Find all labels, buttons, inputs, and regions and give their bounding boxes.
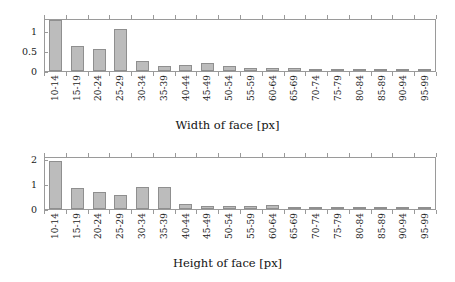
y-tick-mark [44, 52, 48, 53]
bar-slot [153, 20, 175, 71]
bar [179, 204, 192, 209]
bar [49, 161, 62, 209]
x-tick-label-slot: 10-14 [44, 213, 66, 253]
bar-slot [413, 20, 435, 71]
x-tick-mark [436, 72, 437, 76]
bar-slot [327, 158, 349, 209]
bar-slot [88, 20, 110, 71]
bar-slot [153, 158, 175, 209]
x-tick-label: 30-34 [138, 213, 147, 239]
x-tick-label-slot: 55-59 [240, 213, 262, 253]
bar-slot [67, 158, 89, 209]
x-tick-label: 85-89 [377, 213, 386, 239]
bar [158, 66, 171, 71]
bar-slot [45, 20, 67, 71]
x-tick-label-slot: 35-39 [153, 213, 175, 253]
x-tick-mark-top [218, 15, 219, 19]
x-tick-label-slot: 30-34 [131, 213, 153, 253]
x-tick-mark-top [153, 153, 154, 157]
bar-slot [392, 20, 414, 71]
x-tick-mark-top [371, 15, 372, 19]
x-tick-mark-top [392, 15, 393, 19]
x-tick-mark-top [349, 15, 350, 19]
x-tick-mark-top [240, 15, 241, 19]
x-tick-label-slot: 25-29 [109, 213, 131, 253]
x-tick-mark-top [218, 153, 219, 157]
bar [288, 207, 301, 209]
x-tick-label-slot: 75-79 [327, 213, 349, 253]
bar-slot [197, 20, 219, 71]
x-tick-mark-top [66, 15, 67, 19]
bar [114, 29, 127, 71]
bar-slot [67, 20, 89, 71]
x-tick-label: 60-64 [268, 213, 277, 239]
bar-slot [132, 158, 154, 209]
bar-slot [327, 20, 349, 71]
x-tick-label: 40-44 [181, 213, 190, 239]
bar-slot [305, 20, 327, 71]
x-tick-mark-top [109, 15, 110, 19]
x-tick-label-slot: 85-89 [371, 75, 393, 115]
x-tick-label-slot: 85-89 [371, 213, 393, 253]
x-tick-mark-top [327, 153, 328, 157]
y-tick-mark [44, 160, 48, 161]
bar [309, 69, 322, 71]
x-tick-label: 20-24 [94, 213, 103, 239]
bar [114, 195, 127, 209]
x-tick-label: 35-39 [159, 75, 168, 101]
bar-series-height [45, 158, 435, 209]
bar-slot [218, 158, 240, 209]
x-tick-mark-top [414, 15, 415, 19]
x-tick-label: 50-54 [225, 213, 234, 239]
x-tick-label-slot: 70-74 [305, 75, 327, 115]
y-tick-mark [44, 32, 48, 33]
x-tick-label-slot: 60-64 [262, 213, 284, 253]
x-tick-label-slot: 25-29 [109, 75, 131, 115]
x-tick-label-slot: 30-34 [131, 75, 153, 115]
x-tick-mark-top [44, 15, 45, 19]
y-tick-label: 2 [0, 155, 37, 165]
x-tick-label-slot: 80-84 [349, 213, 371, 253]
x-tick-mark-top [131, 153, 132, 157]
plot-area-height [44, 157, 436, 210]
x-tick-label: 45-49 [203, 75, 212, 101]
x-tick-label-slot: 15-19 [66, 213, 88, 253]
x-tick-label-slot: 80-84 [349, 75, 371, 115]
x-tick-label: 40-44 [181, 75, 190, 101]
x-tick-mark-top [436, 15, 437, 19]
x-tick-label-slot: 20-24 [88, 75, 110, 115]
bar [418, 69, 431, 71]
bar [223, 206, 236, 209]
bar [49, 20, 62, 71]
x-tick-label: 35-39 [159, 213, 168, 239]
x-tick-label: 70-74 [312, 75, 321, 101]
x-tick-label: 65-69 [290, 213, 299, 239]
bar [201, 206, 214, 209]
x-tick-label-slot: 65-69 [284, 75, 306, 115]
x-tick-label: 25-29 [116, 213, 125, 239]
bar [136, 61, 149, 71]
x-tick-mark-top [196, 153, 197, 157]
x-tick-label: 75-79 [334, 213, 343, 239]
x-tick-label: 15-19 [72, 75, 81, 101]
x-tick-label: 25-29 [116, 75, 125, 101]
x-tick-mark-top [371, 153, 372, 157]
x-axis-title-width: Width of face [px] [0, 118, 455, 132]
bar-slot [413, 158, 435, 209]
bar [179, 65, 192, 71]
x-tick-label-slot: 50-54 [218, 75, 240, 115]
y-tick-mark [44, 185, 48, 186]
bar-slot [392, 158, 414, 209]
x-tick-label: 85-89 [377, 75, 386, 101]
plot-area-width [44, 19, 436, 72]
bar [201, 63, 214, 71]
y-tick-label: 0 [0, 205, 37, 215]
x-tick-label: 55-59 [246, 75, 255, 101]
bar-slot [348, 158, 370, 209]
bar [223, 66, 236, 71]
chart-height-of-face: 012 10-1415-1920-2425-2930-3435-3940-444… [0, 141, 455, 282]
bar [158, 187, 171, 209]
x-tick-label-slot: 20-24 [88, 213, 110, 253]
bar [266, 205, 279, 209]
x-tick-label: 70-74 [312, 213, 321, 239]
